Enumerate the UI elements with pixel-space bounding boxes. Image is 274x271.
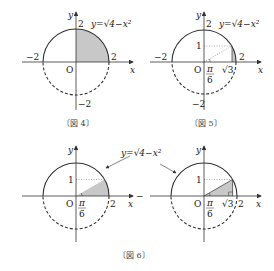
origin-label: O — [194, 65, 201, 75]
right-label: 2 — [238, 199, 244, 209]
bottom-label: −2 — [78, 99, 91, 109]
one-label: 1 — [196, 41, 202, 51]
one-label: 1 — [68, 175, 74, 185]
sqrt3-label: √3 — [222, 65, 234, 75]
angle-arc — [210, 59, 211, 62]
equation-label: y=√4−x² — [218, 19, 260, 29]
dotted-radius-line — [204, 46, 232, 62]
right-label: 2 — [110, 199, 116, 209]
angle-denominator: 6 — [79, 209, 85, 219]
y-axis-label: y — [195, 145, 202, 155]
origin-label: O — [194, 199, 201, 209]
figure-caption: 〔図 5〕 — [190, 119, 222, 128]
sqrt3-label: √3 — [222, 199, 234, 209]
origin-label: O — [66, 199, 73, 209]
x-axis-label: x — [256, 199, 261, 209]
left-label: −2 — [26, 52, 39, 62]
left-label: −2 — [154, 52, 167, 62]
pointer-arrow — [160, 164, 176, 173]
figure-6-caption: 〔図 6〕 — [118, 251, 150, 260]
figure-caption: 〔図 4〕 — [62, 119, 94, 128]
x-axis-label: x — [128, 199, 133, 209]
right-label: 2 — [239, 52, 245, 62]
bottom-label: −2 — [192, 99, 205, 109]
equation-label: y=√4−x² — [90, 19, 132, 29]
top-label: 2 — [206, 19, 212, 29]
angle-numerator: π — [78, 198, 86, 208]
one-label: 1 — [196, 175, 202, 185]
figure-4: y x O 2 2 −2 −2 y=√4−x² 〔図 4〕 — [22, 10, 135, 128]
y-axis-label: y — [67, 145, 74, 155]
y-axis-label: y — [67, 10, 74, 20]
figure-6-left: y x O 2 1 π 6 — [22, 145, 133, 242]
figure-6-right: y x O 2 1 √3 π 6 − — [136, 145, 261, 242]
top-label: 2 — [78, 19, 84, 29]
fig6-equation-label: y=√4−x² — [120, 148, 162, 158]
angle-denominator: 6 — [207, 209, 213, 219]
angle-denominator: 6 — [207, 75, 213, 85]
angle-numerator: π — [206, 64, 214, 74]
x-axis-label: x — [258, 65, 263, 75]
right-label: 2 — [111, 52, 117, 62]
x-axis-label: x — [130, 65, 135, 75]
y-axis-label: y — [195, 10, 202, 20]
origin-label: O — [66, 65, 73, 75]
angle-numerator: π — [206, 198, 214, 208]
diagram-canvas: y x O 2 2 −2 −2 y=√4−x² 〔図 4〕 y x O 2 2 … — [0, 0, 274, 271]
figure-5: y x O 2 2 −2 −2 1 √3 π 6 y=√4−x² 〔図 5〕 — [150, 10, 263, 128]
shaded-sector-region — [76, 180, 109, 197]
minus-sign: − — [136, 191, 144, 201]
